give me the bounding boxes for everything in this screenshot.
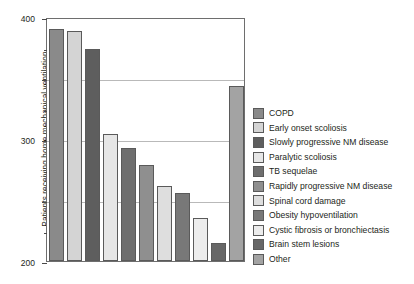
legend-item: Early onset scoliosis — [253, 121, 413, 136]
bar — [211, 243, 226, 261]
legend-swatch-icon — [253, 108, 264, 119]
bar — [157, 186, 172, 261]
legend-swatch-icon — [253, 254, 264, 265]
y-tick-major: 400 — [42, 19, 47, 20]
y-tick-major: 100 — [42, 202, 47, 203]
legend-item-label: COPD — [269, 109, 294, 118]
y-tick-major: 300 — [42, 80, 47, 81]
legend-swatch-icon — [253, 122, 264, 133]
y-tick-minor — [44, 50, 47, 51]
legend-swatch-icon — [253, 210, 264, 221]
bar — [193, 218, 208, 261]
legend-item: TB sequelae — [253, 164, 413, 179]
y-tick-label: 300 — [21, 136, 35, 146]
legend-item: Brain stem lesions — [253, 237, 413, 252]
bar — [121, 148, 136, 261]
bar — [229, 86, 244, 261]
plot-area: 0100200300400 — [46, 18, 245, 262]
legend-item: Obesity hypoventilation — [253, 208, 413, 223]
legend-item: Cystic fibrosis or bronchiectasis — [253, 223, 413, 238]
bar — [139, 165, 154, 261]
legend-item: Spinal cord damage — [253, 194, 413, 209]
legend-swatch-icon — [253, 152, 264, 163]
legend-swatch-icon — [253, 181, 264, 192]
y-tick-minor — [44, 111, 47, 112]
legend-item: Other — [253, 252, 413, 267]
legend-swatch-icon — [253, 166, 264, 177]
legend-swatch-icon — [253, 137, 264, 148]
bar — [85, 49, 100, 261]
legend-item: Rapidly progressive NM disease — [253, 179, 413, 194]
legend-item-label: Brain stem lesions — [269, 240, 339, 249]
legend-swatch-icon — [253, 239, 264, 250]
legend-item-label: Rapidly progressive NM disease — [269, 182, 392, 191]
bar — [175, 193, 190, 261]
y-tick-major: 0 — [42, 263, 47, 264]
legend-item-label: Other — [269, 255, 291, 264]
legend-item-label: Obesity hypoventilation — [269, 211, 358, 220]
legend-item: Paralytic scoliosis — [253, 150, 413, 165]
legend-item-label: Cystic fibrosis or bronchiectasis — [269, 226, 389, 235]
legend: COPDEarly onset scoliosisSlowly progress… — [253, 106, 413, 267]
bar — [103, 134, 118, 261]
legend-item-label: Slowly progressive NM disease — [269, 138, 388, 147]
y-tick-minor — [44, 172, 47, 173]
bar-chart-figure: Patients receiving home mechanical venti… — [0, 0, 414, 284]
legend-item-label: Paralytic scoliosis — [269, 153, 337, 162]
bar — [67, 31, 82, 261]
y-tick-label: 400 — [21, 14, 35, 24]
legend-item-label: TB sequelae — [269, 167, 317, 176]
legend-item: Slowly progressive NM disease — [253, 135, 413, 150]
legend-item-label: Early onset scoliosis — [269, 124, 347, 133]
y-tick-major: 200 — [42, 141, 47, 142]
legend-item-label: Spinal cord damage — [269, 197, 345, 206]
legend-swatch-icon — [253, 195, 264, 206]
bar — [49, 29, 64, 261]
y-tick-minor — [44, 233, 47, 234]
y-tick-label: 200 — [21, 258, 35, 268]
legend-swatch-icon — [253, 225, 264, 236]
legend-item: COPD — [253, 106, 413, 121]
